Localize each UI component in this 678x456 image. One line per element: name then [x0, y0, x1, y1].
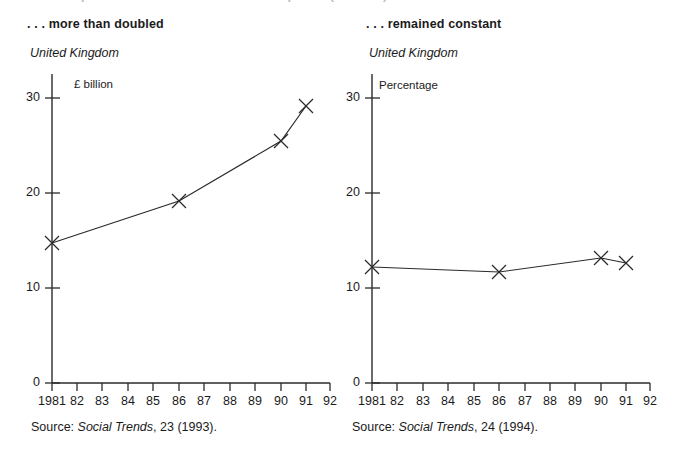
y-tick-label-10-right: 10 — [334, 280, 360, 294]
y-tick-label-30-left: 30 — [14, 90, 40, 104]
x-tick-label-89-right: 89 — [562, 394, 588, 408]
data-point-marker — [172, 194, 186, 208]
y-tick-label-0-right: 0 — [334, 375, 360, 389]
series-line-right — [372, 258, 626, 272]
source-publication-left: Social Trends — [78, 420, 154, 434]
x-tick-label-91-left: 91 — [293, 394, 319, 408]
x-tick-label-87-right: 87 — [512, 394, 538, 408]
source-publication-right: Social Trends — [399, 420, 475, 434]
x-tick-label-84-left: 84 — [115, 394, 141, 408]
x-tick-label-86-right: 86 — [486, 394, 512, 408]
x-ticks-left — [52, 383, 330, 391]
y-tick-label-0-left: 0 — [14, 375, 40, 389]
source-prefix-right: Source: — [352, 420, 399, 434]
x-tick-label-84-right: 84 — [435, 394, 461, 408]
x-tick-label-85-right: 85 — [461, 394, 487, 408]
data-point-marker — [619, 256, 633, 270]
x-tick-label-85-left: 85 — [140, 394, 166, 408]
source-suffix-right: , 24 (1994). — [474, 420, 538, 434]
x-tick-label-83-left: 83 — [89, 394, 115, 408]
y-tick-label-10-left: 10 — [14, 280, 40, 294]
plot-area-left: 30 20 10 0 1981 82 83 84 85 86 87 88 89 … — [0, 0, 339, 430]
x-tick-label-86-left: 86 — [166, 394, 192, 408]
y-tick-label-30-right: 30 — [334, 90, 360, 104]
source-suffix-left: , 23 (1993). — [153, 420, 217, 434]
source-note-left: Source: Social Trends, 23 (1993). — [31, 420, 217, 434]
x-tick-label-88-left: 88 — [217, 394, 243, 408]
x-tick-label-90-right: 90 — [588, 394, 614, 408]
source-prefix-left: Source: — [31, 420, 78, 434]
source-note-right: Source: Social Trends, 24 (1994). — [352, 420, 538, 434]
data-point-marker — [299, 99, 313, 113]
x-tick-label-92-right: 92 — [637, 394, 663, 408]
x-tick-label-82-left: 82 — [64, 394, 90, 408]
x-tick-label-87-left: 87 — [191, 394, 217, 408]
chart-svg-left — [0, 0, 339, 430]
chart-panel-right: . . . remained constant United Kingdom P… — [339, 0, 678, 456]
x-tick-label-82-right: 82 — [384, 394, 410, 408]
data-point-marker — [594, 251, 608, 265]
x-tick-label-91-right: 91 — [613, 394, 639, 408]
plot-area-right: 30 20 10 0 1981 82 83 84 85 86 87 88 89 … — [339, 0, 678, 430]
chart-panel-left: . . . more than doubled United Kingdom £… — [0, 0, 339, 456]
y-tick-label-20-right: 20 — [334, 185, 360, 199]
series-line-left — [52, 106, 306, 243]
data-point-marker — [274, 134, 288, 148]
x-ticks-right — [372, 383, 650, 391]
series-markers-left — [45, 99, 313, 250]
chart-svg-right — [339, 0, 678, 430]
figure-page: Gross expenditure on research and develo… — [0, 0, 678, 456]
x-tick-label-89-left: 89 — [242, 394, 268, 408]
y-tick-label-20-left: 20 — [14, 185, 40, 199]
series-markers-right — [365, 251, 633, 279]
x-tick-label-90-left: 90 — [268, 394, 294, 408]
x-tick-label-88-right: 88 — [537, 394, 563, 408]
x-tick-label-83-right: 83 — [410, 394, 436, 408]
